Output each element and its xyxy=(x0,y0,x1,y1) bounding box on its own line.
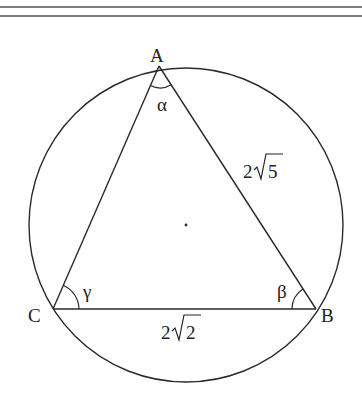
angle-label-alpha: α xyxy=(157,94,167,115)
side-label-BC: 2 2 xyxy=(161,315,201,343)
vertex-label-A: A xyxy=(150,45,164,66)
side-label-AB-rad: 5 xyxy=(268,161,278,182)
angle-label-gamma: γ xyxy=(82,281,91,302)
angle-arc-gamma xyxy=(64,286,80,310)
diagram-canvas: A C B α γ β 2 5 2 2 xyxy=(0,0,362,394)
vertex-label-C: C xyxy=(28,305,41,326)
center-dot xyxy=(185,224,188,227)
angle-arc-alpha xyxy=(151,85,172,88)
side-label-AB: 2 5 xyxy=(243,154,283,182)
side-label-AB-coef: 2 xyxy=(243,161,253,182)
vertex-label-B: B xyxy=(321,305,334,326)
angle-arc-beta xyxy=(292,289,303,309)
side-label-BC-coef: 2 xyxy=(161,322,171,343)
side-label-BC-rad: 2 xyxy=(186,322,196,343)
angle-label-beta: β xyxy=(277,281,287,302)
side-AB xyxy=(159,66,316,309)
side-AC xyxy=(53,66,159,309)
